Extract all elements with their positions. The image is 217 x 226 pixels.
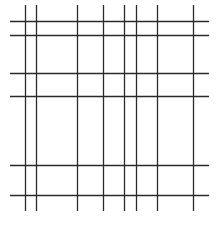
background: [0, 0, 217, 226]
line-grid-diagram: [0, 0, 217, 226]
